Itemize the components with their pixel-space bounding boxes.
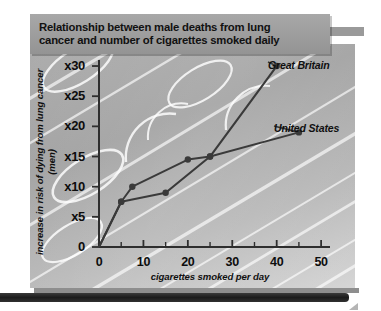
x-tick-label: 30 (217, 255, 247, 269)
title-line-2: cancer and number of cigarettes smoked d… (39, 34, 330, 47)
series-great-britain (99, 63, 280, 247)
x-tick-label: 0 (84, 255, 114, 269)
data-point (162, 190, 168, 196)
data-point (129, 183, 135, 189)
x-tick-label: 50 (306, 255, 336, 269)
title-line-1: Relationship between male deaths from lu… (39, 21, 330, 34)
y-axis-ticks (92, 66, 99, 247)
x-axis-title: cigarettes smoked per day (105, 271, 315, 282)
x-tick-label: 20 (173, 255, 203, 269)
data-series-layer (99, 62, 302, 247)
axis-lines (99, 60, 330, 247)
chart-title-banner: Relationship between male deaths from lu… (30, 14, 330, 54)
x-tick-label: 10 (128, 255, 158, 269)
series-label-united-states: United States (274, 122, 339, 134)
series-label-great-britain: Great Britain (268, 59, 330, 71)
data-point (118, 199, 124, 205)
title-banner-tab (330, 27, 364, 36)
series-united-states (99, 129, 302, 247)
data-point (185, 156, 191, 162)
x-tick-label: 40 (262, 255, 292, 269)
series-line (99, 132, 299, 247)
data-point (207, 153, 213, 159)
y-axis-title: increase in risk of dying from lung canc… (34, 67, 58, 257)
